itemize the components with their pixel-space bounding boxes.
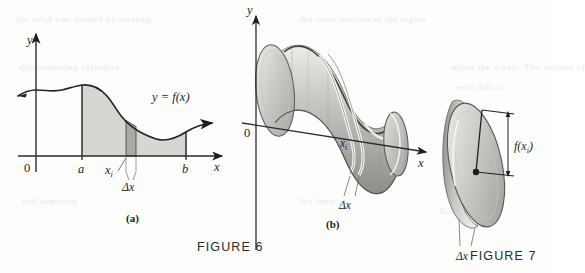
figure-a-y-axis-label: y <box>25 33 33 47</box>
figure-a-curve-label: y = f(x) <box>150 90 190 104</box>
disk-dim-arrowhead-top <box>506 111 511 117</box>
disk-radius-label-base: f(x <box>514 139 527 153</box>
xi-leader-line <box>118 158 126 171</box>
disk-delta-leader-right <box>471 228 475 246</box>
disk-radius-label-close: ) <box>528 139 533 153</box>
caption-figure-7: FIGURE 7 <box>470 249 536 263</box>
figure-b-y-axis-label: y <box>245 3 253 17</box>
figure-a-origin-label: 0 <box>24 161 30 175</box>
figure-b-origin-label: 0 <box>244 126 250 140</box>
figure-a-x-axis-label: x <box>213 160 220 174</box>
figure-a-tick-b-label: b <box>182 162 188 176</box>
disk-radius-label: f(xi) <box>514 139 533 155</box>
figure-a-panel-label: (a) <box>126 212 139 224</box>
figure-a-xi-label: xi <box>104 163 114 179</box>
figure-a-svg: y x 0 a b xi Δx y = f(x) <box>0 0 250 273</box>
figure-b-delta-leader-left <box>344 176 350 196</box>
figure-b-xi-subscript: i <box>345 143 347 152</box>
figure-7-disk: f(xi) Δx <box>430 50 552 273</box>
figure-b-x-axis-label: x <box>417 156 424 170</box>
delta-x-leader-left <box>126 172 129 180</box>
disk-dim-arrowhead-bottom <box>506 171 511 177</box>
figure-a-xi-subscript: i <box>111 169 114 179</box>
disk-dim-leader-top <box>482 110 514 114</box>
figure-b-delta-x-label: Δx <box>338 199 352 211</box>
disk-delta-x-label: Δx <box>455 250 469 262</box>
disk-delta-leader-left <box>459 220 460 246</box>
delta-x-leader-right <box>133 172 136 180</box>
figure-a-tick-a-label: a <box>78 162 84 176</box>
figure-a-area-under-curve: y x 0 a b xi Δx y = f(x) (a) <box>0 0 250 273</box>
caption-figure-6: FIGURE 6 <box>197 240 263 254</box>
figure-b-panel-label: (b) <box>326 218 339 230</box>
figure-a-delta-x-label: Δx <box>121 180 135 194</box>
figure-c-svg: f(xi) Δx <box>430 50 552 273</box>
figure-b-solid-of-revolution: y x 0 xi Δx (b) <box>240 0 440 273</box>
figure-b-svg: y x 0 xi Δx <box>240 0 450 273</box>
